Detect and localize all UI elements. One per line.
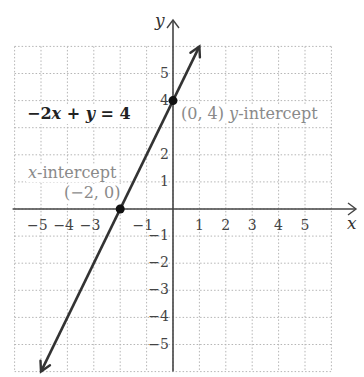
x-tick-label: −3 bbox=[80, 218, 101, 232]
y-intercept-var: y bbox=[229, 104, 238, 123]
y-tick-label: −4 bbox=[148, 309, 169, 323]
x-tick-label: 4 bbox=[274, 218, 283, 232]
y-tick-label: −2 bbox=[148, 255, 169, 269]
x-axis-label: x bbox=[347, 215, 357, 232]
intercept-point bbox=[169, 96, 178, 105]
x-intercept-coord-text: (−2, 0) bbox=[64, 183, 120, 202]
y-intercept-label: (0, 4) y-intercept bbox=[179, 105, 320, 123]
y-tick-label: 5 bbox=[160, 66, 169, 80]
y-tick-label: 2 bbox=[160, 147, 169, 161]
x-intercept-var: x bbox=[28, 163, 37, 182]
y-axis-label: y bbox=[155, 12, 165, 29]
y-tick-label: 4 bbox=[160, 93, 169, 107]
coordinate-plane bbox=[0, 0, 364, 377]
equation-label: −2x + y = 4 bbox=[24, 104, 134, 124]
x-tick-label: 3 bbox=[248, 218, 257, 232]
y-tick-label: 1 bbox=[160, 174, 169, 188]
x-intercept-coord: (−2, 0) bbox=[62, 184, 122, 202]
y-tick-label: −5 bbox=[148, 337, 169, 351]
eq-part: + bbox=[61, 104, 86, 123]
y-tick-label: −1 bbox=[148, 228, 169, 242]
x-tick-label: 5 bbox=[301, 218, 310, 232]
y-intercept-text: -intercept bbox=[238, 104, 317, 123]
eq-var-x: x bbox=[52, 104, 62, 123]
eq-var-y: y bbox=[86, 104, 95, 123]
x-intercept-text: -intercept bbox=[37, 163, 116, 182]
x-tick-label: −4 bbox=[53, 218, 74, 232]
x-tick-label: 2 bbox=[221, 218, 230, 232]
x-tick-label: −5 bbox=[27, 218, 48, 232]
x-tick-label: 1 bbox=[195, 218, 204, 232]
y-tick-label: −3 bbox=[148, 282, 169, 296]
eq-part: −2 bbox=[27, 104, 52, 123]
intercept-point bbox=[116, 205, 125, 214]
x-intercept-label: x-intercept bbox=[26, 164, 119, 182]
eq-part: = 4 bbox=[95, 104, 131, 123]
y-intercept-coord: (0, 4) bbox=[181, 104, 229, 123]
